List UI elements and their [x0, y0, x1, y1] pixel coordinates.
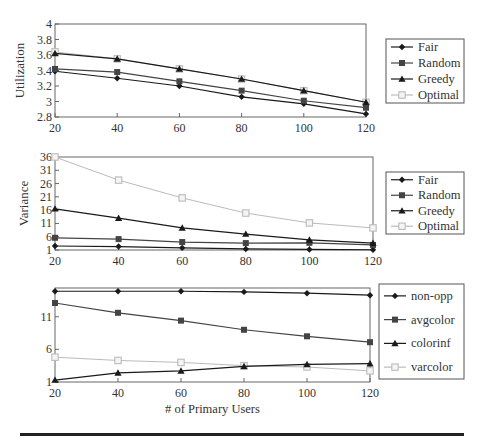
- chart-panel-1: 2.833.23.43.63.8420406080100120Utilizati…: [12, 17, 464, 135]
- legend: FairRandomGreedyOptimal: [386, 172, 464, 234]
- series-fair: [52, 68, 369, 117]
- x-tick-label: 60: [173, 121, 185, 135]
- y-tick-label: 31: [40, 163, 52, 177]
- y-tick-label: 16: [40, 203, 52, 217]
- figure: 2.833.23.43.63.8420406080100120Utilizati…: [0, 0, 485, 441]
- series-avgcolor: [52, 300, 373, 345]
- chart-panel-3: 161120406080100120# of Primary Usersnon-…: [40, 284, 464, 416]
- y-tick-label: 6: [46, 230, 52, 244]
- legend-label: Greedy: [418, 72, 456, 86]
- x-tick-label: 20: [49, 121, 61, 135]
- x-axis: 20406080100120: [49, 378, 379, 400]
- legend-label: Fair: [418, 40, 439, 54]
- y-tick-label: 3.2: [37, 79, 52, 93]
- y-tick-label: 4: [46, 17, 52, 31]
- x-tick-label: 120: [364, 254, 382, 268]
- x-tick-label: 100: [295, 121, 313, 135]
- x-tick-label: 40: [113, 254, 125, 268]
- x-axis: 20406080100120: [49, 113, 375, 135]
- series-greedy: [51, 205, 376, 246]
- y-axis-label: Variance: [16, 181, 31, 227]
- bottom-rule-divider: [20, 433, 464, 436]
- legend-label: avgcolor: [411, 313, 456, 327]
- y-axis: 1611: [40, 310, 59, 389]
- y-axis: 16111621263136: [40, 150, 59, 257]
- legend-label: Optimal: [418, 219, 459, 233]
- x-tick-label: 80: [238, 386, 250, 400]
- x-tick-label: 60: [176, 254, 188, 268]
- x-axis-label: # of Primary Users: [165, 402, 260, 416]
- y-tick-label: 3: [46, 95, 52, 109]
- y-tick-label: 11: [40, 216, 52, 230]
- x-tick-label: 40: [112, 386, 124, 400]
- series-random: [52, 66, 369, 111]
- legend-label: non-opp: [411, 289, 453, 303]
- x-tick-label: 120: [357, 121, 375, 135]
- legend-label: colorinf: [411, 336, 451, 350]
- chart-panel-2: 1611162126313620406080100120VarianceFair…: [16, 150, 464, 268]
- y-tick-label: 11: [40, 310, 52, 324]
- y-tick-label: 6: [46, 342, 52, 356]
- legend-label: Fair: [418, 173, 439, 187]
- line-charts-figure: 2.833.23.43.63.8420406080100120Utilizati…: [0, 0, 485, 441]
- y-tick-label: 26: [40, 177, 52, 191]
- y-tick-label: 3.8: [37, 33, 52, 47]
- y-tick-label: 3.6: [37, 48, 52, 62]
- x-tick-label: 20: [49, 254, 61, 268]
- series-optimal: [52, 154, 376, 231]
- series-colorinf: [51, 360, 373, 383]
- x-tick-label: 80: [236, 121, 248, 135]
- series-non-opp: [52, 288, 373, 298]
- x-tick-label: 80: [240, 254, 252, 268]
- x-tick-label: 20: [49, 386, 61, 400]
- plot-area-frame: [55, 157, 373, 250]
- series-greedy: [51, 50, 369, 105]
- series-fair: [52, 243, 376, 253]
- legend-label: varcolor: [411, 360, 453, 374]
- legend: non-oppavgcolorcolorinfvarcolor: [379, 284, 464, 379]
- legend-label: Random: [418, 56, 461, 70]
- legend-label: Random: [418, 188, 461, 202]
- legend-label: Optimal: [418, 88, 459, 102]
- y-tick-label: 3.4: [37, 64, 52, 78]
- y-tick-label: 36: [40, 150, 52, 164]
- y-axis-label: Utilization: [12, 42, 27, 98]
- x-tick-label: 40: [111, 121, 123, 135]
- y-tick-label: 21: [40, 190, 52, 204]
- x-tick-label: 60: [175, 386, 187, 400]
- x-tick-label: 100: [300, 254, 318, 268]
- legend-label: Greedy: [418, 204, 456, 218]
- x-tick-label: 100: [298, 386, 316, 400]
- legend: FairRandomGreedyOptimal: [386, 39, 464, 103]
- x-tick-label: 120: [361, 386, 379, 400]
